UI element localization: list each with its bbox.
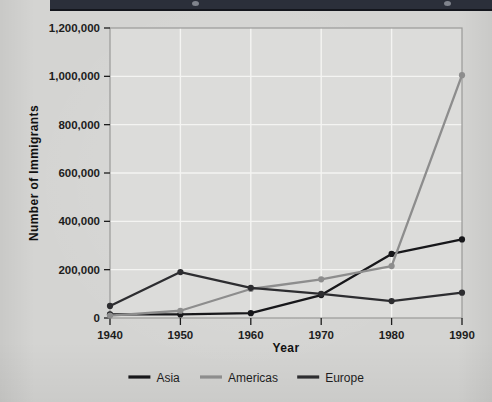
- y-axis-tick-label: 1,000,000: [49, 70, 100, 82]
- data-point-marker: [177, 269, 183, 275]
- y-axis-tick-label: 1,200,000: [49, 22, 100, 34]
- legend-label: Americas: [228, 371, 278, 385]
- data-point-marker: [389, 298, 395, 304]
- data-point-marker: [107, 312, 113, 318]
- y-axis-tick-label: 200,000: [58, 264, 100, 276]
- y-axis-tick-label: 800,000: [58, 119, 100, 131]
- data-point-marker: [318, 276, 324, 282]
- y-axis-tick-label: 400,000: [58, 215, 100, 227]
- x-axis-tick-label: 1940: [97, 329, 123, 341]
- x-axis-tick-label: 1980: [379, 329, 405, 341]
- data-point-marker: [107, 303, 113, 309]
- legend-label: Europe: [325, 371, 364, 385]
- data-point-marker: [248, 310, 254, 316]
- x-axis-tick-label: 1960: [238, 329, 264, 341]
- y-axis-tick-label: 600,000: [58, 167, 100, 179]
- data-point-marker: [177, 308, 183, 314]
- x-axis-tick-label: 1990: [449, 329, 475, 341]
- data-point-marker: [248, 285, 254, 291]
- immigration-line-chart: 0200,000400,000600,000800,0001,000,0001,…: [0, 0, 492, 402]
- legend-item-americas[interactable]: Americas: [200, 371, 278, 385]
- legend-item-asia[interactable]: Asia: [128, 371, 180, 385]
- chart-svg: 0200,000400,000600,000800,0001,000,0001,…: [0, 0, 492, 402]
- y-axis: 0200,000400,000600,000800,0001,000,0001,…: [49, 22, 110, 324]
- data-point-marker: [389, 263, 395, 269]
- chart-legend: AsiaAmericasEurope: [128, 371, 364, 385]
- data-point-marker: [459, 72, 465, 78]
- data-point-marker: [318, 291, 324, 297]
- y-axis-title: Number of Immigrants: [27, 105, 41, 241]
- legend-item-europe[interactable]: Europe: [297, 371, 364, 385]
- y-axis-tick-label: 0: [94, 312, 100, 324]
- data-point-marker: [459, 236, 465, 242]
- data-point-marker: [389, 251, 395, 257]
- x-axis-title: Year: [273, 341, 300, 355]
- legend-label: Asia: [156, 371, 180, 385]
- x-axis-tick-label: 1950: [168, 329, 194, 341]
- x-axis-tick-label: 1970: [308, 329, 334, 341]
- x-axis: 194019501960197019801990: [97, 318, 475, 341]
- data-point-marker: [459, 290, 465, 296]
